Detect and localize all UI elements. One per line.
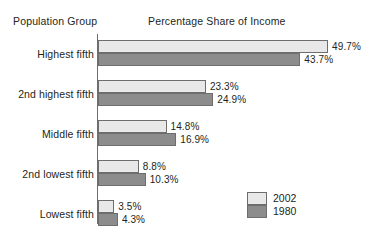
bar-value-label: 43.7%: [304, 53, 333, 66]
bar-rect: [98, 200, 114, 213]
bar-1980: 24.9%: [98, 93, 213, 106]
bar-rect: [98, 173, 146, 186]
bar-rect: [98, 120, 167, 133]
bar-value-label: 24.9%: [217, 93, 246, 106]
bar-rect: [98, 133, 176, 146]
bar-value-label: 49.7%: [332, 40, 361, 53]
category-label: Lowest fifth: [40, 208, 94, 220]
bar-rect: [98, 80, 206, 93]
bar-rect: [98, 213, 118, 226]
bar-1980: 43.7%: [98, 53, 300, 66]
category-label: Middle fifth: [42, 128, 94, 140]
bar-2002: 23.3%: [98, 80, 206, 93]
bar-rect: [98, 40, 328, 53]
bar-2002: 8.8%: [98, 160, 139, 173]
bar-rect: [98, 93, 213, 106]
bar-group: 2nd highest fifth23.3%24.9%: [0, 80, 375, 112]
bar-value-label: 4.3%: [122, 213, 145, 226]
bar-1980: 16.9%: [98, 133, 176, 146]
bar-1980: 10.3%: [98, 173, 146, 186]
bar-group: 2nd lowest fifth8.8%10.3%: [0, 160, 375, 192]
bar-group: Middle fifth14.8%16.9%: [0, 120, 375, 152]
chart-legend: 2002 1980: [247, 192, 337, 224]
legend-swatch-1980: [247, 205, 267, 218]
category-label: 2nd highest fifth: [18, 88, 94, 100]
bar-rect: [98, 160, 139, 173]
bar-2002: 3.5%: [98, 200, 114, 213]
bar-rect: [98, 53, 300, 66]
bar-value-label: 14.8%: [171, 120, 200, 133]
legend-swatch-2002: [247, 192, 267, 205]
category-label: 2nd lowest fifth: [22, 168, 94, 180]
bar-value-label: 8.8%: [143, 160, 166, 173]
bar-value-label: 16.9%: [180, 133, 209, 146]
bar-value-label: 3.5%: [118, 200, 141, 213]
category-label: Highest fifth: [37, 48, 94, 60]
bar-1980: 4.3%: [98, 213, 118, 226]
bar-2002: 49.7%: [98, 40, 328, 53]
bar-value-label: 10.3%: [150, 173, 179, 186]
bar-2002: 14.8%: [98, 120, 167, 133]
legend-label-1980: 1980: [273, 205, 296, 218]
legend-label-2002: 2002: [273, 192, 296, 205]
income-share-bar-chart: Population Group Percentage Share of Inc…: [0, 0, 375, 247]
bar-group: Highest fifth49.7%43.7%: [0, 40, 375, 72]
bar-value-label: 23.3%: [210, 80, 239, 93]
